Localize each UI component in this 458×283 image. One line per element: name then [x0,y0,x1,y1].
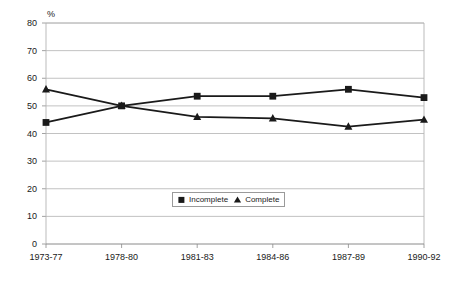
y-axis-tick-label: 70 [15,47,37,56]
y-axis-unit-label: % [47,9,55,19]
data-series-layer [42,85,428,130]
y-axis-tick-label: 40 [15,130,37,139]
x-axis-tick-label: 1978-80 [87,253,157,262]
triangle-marker-icon [233,195,242,204]
legend-item: Incomplete [177,195,228,204]
legend-label: Complete [245,196,279,204]
y-axis-tick-label: 20 [15,185,37,194]
x-axis-tick-label: 1987-89 [313,253,383,262]
plot-area [0,0,458,283]
legend-label: Incomplete [189,196,228,204]
square-marker-icon [269,93,276,100]
square-marker-icon [177,195,186,204]
y-axis-tick-label: 80 [15,19,37,28]
x-axis-tick-label: 1984-86 [238,253,308,262]
square-marker-icon [345,86,352,93]
square-marker-icon [194,93,201,100]
y-axis-tick-label: 10 [15,212,37,221]
chart-legend: IncompleteComplete [172,192,285,207]
gridlines [46,23,424,216]
y-axis-tick-label: 30 [15,157,37,166]
line-chart: % 01020304050607080 1973-771978-801981-8… [0,0,458,283]
y-axis-tick-label: 60 [15,74,37,83]
y-axis-tick-label: 50 [15,102,37,111]
legend-item: Complete [233,195,279,204]
x-axis-tick-label: 1981-83 [162,253,232,262]
x-axis-tick-label: 1973-77 [11,253,81,262]
square-marker-icon [421,94,428,101]
axis-ticks [42,23,424,248]
y-axis-tick-label: 0 [15,240,37,249]
triangle-marker-icon [42,85,50,92]
series-line [46,89,424,126]
x-axis-tick-label: 1990-92 [389,253,458,262]
square-marker-icon [43,119,50,126]
